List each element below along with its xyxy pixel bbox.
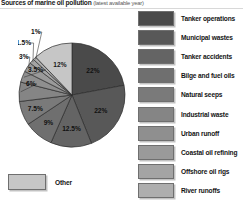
legend-item[interactable]: Municipal wastes [138,28,242,47]
pie-slice-label: 12% [53,61,66,68]
legend-label: Offshore oil rigs [181,168,229,175]
legend-item-other[interactable]: Other [8,174,72,190]
legend-item[interactable]: Coastal oil refining [138,143,242,162]
legend-swatch [138,87,174,102]
legend-item[interactable]: Tanker accidents [138,47,242,66]
pie-slice-label: 7.5% [28,105,43,112]
legend-label: Tanker operations [181,15,235,22]
legend-swatch [138,183,174,198]
legend-item[interactable]: Tanker operations [138,9,242,28]
legend-item[interactable]: River runoffs [138,181,242,200]
legend-swatch [138,164,174,179]
pie-slice-label: 1.5% [18,39,31,46]
pie-slice-label: 3% [19,53,29,60]
pie-slice-label: 12.5% [62,125,81,132]
pie-slice-label: 22% [94,107,107,114]
legend-label: Bilge and fuel oils [181,72,235,79]
legend-swatch [138,68,174,83]
chart-title: Sources of marine oil pollution (latest … [1,0,242,8]
pie-slice-label: 22% [86,67,99,74]
legend-swatch-other [8,174,46,190]
legend-item[interactable]: Natural seeps [138,85,242,104]
legend-item[interactable]: Offshore oil rigs [138,162,242,181]
legend-label: Coastal oil refining [181,149,237,156]
legend-swatch [138,107,174,122]
pie-slice-label: 6% [26,80,36,87]
legend-label: Industrial waste [181,111,228,118]
chart-title-sub: (latest available year) [93,0,144,6]
legend-label-other: Other [55,179,72,186]
legend-label: Municipal wastes [181,34,233,41]
legend-label: Natural seeps [181,91,222,98]
pie-slice-label: 3.5% [28,66,43,73]
legend-label: River runoffs [181,187,220,194]
pie-slice-label: 9% [44,119,54,126]
legend-label: Tanker accidents [181,53,232,60]
pie-slice-label: 1% [31,28,41,35]
legend-swatch [138,145,174,160]
legend-swatch [138,49,174,64]
pie-chart: 22%22%12.5%9%7.5%6%3.5%3%1.5%1%12% [18,14,130,172]
legend-item[interactable]: Bilge and fuel oils [138,66,242,85]
legend-swatch [138,30,174,45]
legend-item[interactable]: Urban runoff [138,124,242,143]
legend-label: Urban runoff [181,130,219,137]
legend: Tanker operationsMunicipal wastesTanker … [138,9,242,200]
legend-swatch [138,11,174,26]
legend-swatch [138,126,174,141]
legend-item[interactable]: Industrial waste [138,104,242,123]
chart-title-main: Sources of marine oil pollution [1,0,92,6]
pie-chart-svg: 22%22%12.5%9%7.5%6%3.5%3%1.5%1%12% [18,14,130,172]
